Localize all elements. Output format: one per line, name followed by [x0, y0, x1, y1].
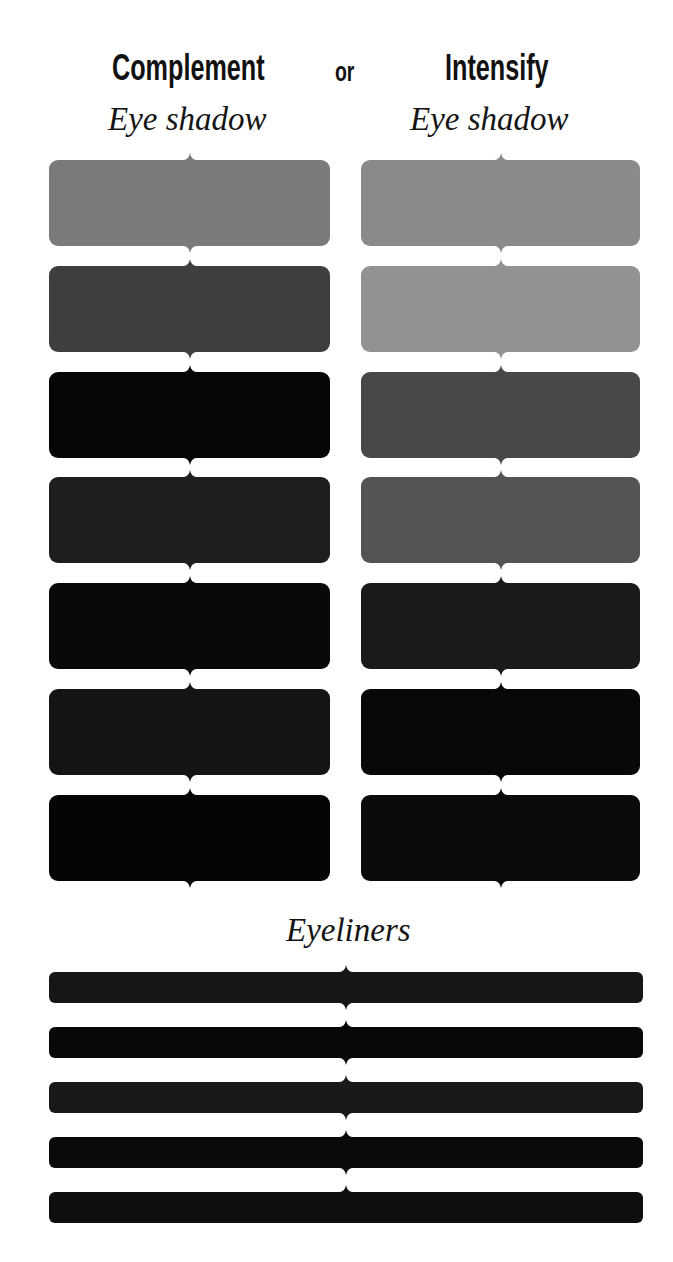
bracket-notch-icon	[184, 788, 196, 795]
bracket-notch-icon	[495, 365, 507, 372]
bracket-notch-icon	[495, 682, 507, 689]
bracket-notch-icon	[184, 775, 196, 782]
bracket-notch-icon	[340, 1003, 352, 1010]
eye-shadow-swatch	[361, 266, 640, 352]
bracket-notch-icon	[184, 365, 196, 372]
bracket-notch-icon	[495, 881, 507, 888]
bracket-notch-icon	[495, 669, 507, 676]
eyeliner-swatch	[49, 972, 643, 1003]
eye-shadow-swatch	[361, 795, 640, 881]
eye-shadow-swatch	[49, 477, 330, 563]
bracket-notch-icon	[495, 788, 507, 795]
eyeliner-swatch	[49, 1082, 643, 1113]
eye-shadow-swatch	[361, 689, 640, 775]
bracket-notch-icon	[184, 470, 196, 477]
bracket-notch-icon	[340, 1113, 352, 1120]
bracket-notch-icon	[495, 563, 507, 570]
bracket-notch-icon	[340, 1185, 352, 1192]
eye-shadow-swatch	[49, 160, 330, 246]
bracket-notch-icon	[495, 775, 507, 782]
bracket-notch-icon	[495, 352, 507, 359]
bracket-notch-icon	[340, 1130, 352, 1137]
eyeliner-swatch	[49, 1137, 643, 1168]
bracket-notch-icon	[495, 246, 507, 253]
intensify-title: Intensify	[445, 50, 549, 86]
bracket-notch-icon	[495, 576, 507, 583]
bracket-notch-icon	[184, 881, 196, 888]
eye-shadow-swatch	[361, 477, 640, 563]
bracket-notch-icon	[184, 682, 196, 689]
eyeliners-title: Eyeliners	[286, 914, 411, 947]
bracket-notch-icon	[184, 669, 196, 676]
bracket-notch-icon	[184, 576, 196, 583]
bracket-notch-icon	[495, 470, 507, 477]
eye-shadow-swatch	[49, 372, 330, 458]
bracket-notch-icon	[184, 153, 196, 160]
bracket-notch-icon	[184, 259, 196, 266]
bracket-notch-icon	[184, 352, 196, 359]
bracket-notch-icon	[340, 1168, 352, 1175]
bracket-notch-icon	[184, 458, 196, 465]
eyeliner-swatch	[49, 1027, 643, 1058]
eye-shadow-swatch	[361, 372, 640, 458]
bracket-notch-icon	[340, 1058, 352, 1065]
complement-title: Complement	[112, 50, 265, 86]
bracket-notch-icon	[340, 1075, 352, 1082]
eye-shadow-swatch	[49, 795, 330, 881]
bracket-notch-icon	[495, 458, 507, 465]
eye-shadow-swatch	[49, 266, 330, 352]
bracket-notch-icon	[495, 259, 507, 266]
or-connector: or	[335, 59, 354, 86]
bracket-notch-icon	[340, 965, 352, 972]
eye-shadow-swatch	[49, 689, 330, 775]
intensify-subtitle: Eye shadow	[410, 103, 569, 136]
bracket-notch-icon	[495, 153, 507, 160]
bracket-notch-icon	[184, 563, 196, 570]
complement-subtitle: Eye shadow	[108, 103, 267, 136]
bracket-notch-icon	[340, 1020, 352, 1027]
eyeliner-swatch	[49, 1192, 643, 1223]
bracket-notch-icon	[184, 246, 196, 253]
eye-shadow-swatch	[361, 160, 640, 246]
eye-shadow-swatch	[361, 583, 640, 669]
eye-shadow-swatch	[49, 583, 330, 669]
